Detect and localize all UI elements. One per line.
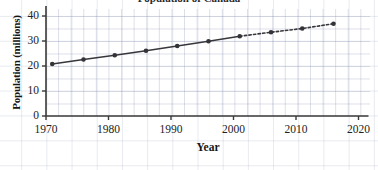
data-point-marker xyxy=(175,44,180,49)
data-point-marker xyxy=(206,39,211,44)
data-point-marker xyxy=(50,62,55,67)
projected-trend-line xyxy=(240,24,334,37)
data-series xyxy=(46,9,378,129)
data-point-marker xyxy=(237,34,242,39)
data-point-marker xyxy=(81,57,86,62)
data-point-marker xyxy=(269,30,274,35)
population-of-canada-chart: Population of Canada Population (million… xyxy=(0,0,378,170)
data-point-marker xyxy=(331,21,336,26)
data-point-marker xyxy=(112,53,117,58)
data-point-marker xyxy=(300,26,305,31)
data-point-marker xyxy=(144,48,149,53)
plot-area xyxy=(46,9,370,116)
